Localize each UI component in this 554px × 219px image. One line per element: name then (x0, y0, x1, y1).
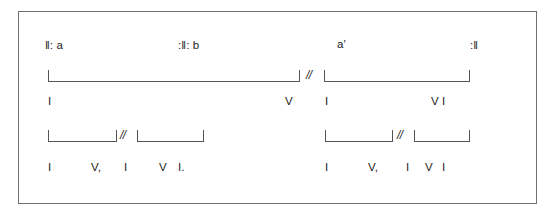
harmony-lower-token-6: I (325, 161, 328, 174)
harmony-upper-token-1: I (48, 95, 51, 108)
section-label-close-repeat: :‖ (470, 39, 478, 52)
section-label-a-open: ‖: a (45, 39, 63, 52)
sub-bracket-2 (137, 130, 204, 142)
sub-bracket-1 (48, 130, 117, 142)
harmony-upper-token-3: I (325, 95, 328, 108)
harmony-lower-token-10: I (442, 161, 445, 174)
phrase-separator-main: // (306, 69, 312, 82)
harmony-lower-token-4: V (159, 161, 167, 174)
phrase-separator-sub-left: // (120, 129, 126, 142)
harmony-lower-token-1: I (48, 161, 51, 174)
sub-bracket-3 (325, 130, 393, 142)
harmony-upper-token-2: V (285, 95, 293, 108)
phrase-bracket-left (48, 70, 300, 82)
harmony-upper-token-4: V I (431, 95, 445, 108)
harmony-lower-token-7: V, (368, 161, 378, 174)
harmony-lower-token-5: I. (178, 161, 185, 174)
harmony-lower-token-9: V (425, 161, 433, 174)
diagram-frame: ‖: a :‖: b a′ :‖ // I V I V I // // I V,… (18, 11, 537, 204)
phrase-bracket-right (324, 70, 470, 82)
phrase-separator-sub-right: // (397, 129, 403, 142)
sub-bracket-4 (414, 130, 470, 142)
harmony-lower-token-3: I (124, 161, 127, 174)
section-label-b: :‖: b (178, 39, 199, 52)
harmony-lower-token-8: I (406, 161, 409, 174)
harmony-lower-token-2: V, (91, 161, 101, 174)
form-diagram: ‖: a :‖: b a′ :‖ // I V I V I // // I V,… (0, 0, 554, 219)
section-label-a-prime: a′ (337, 38, 346, 51)
